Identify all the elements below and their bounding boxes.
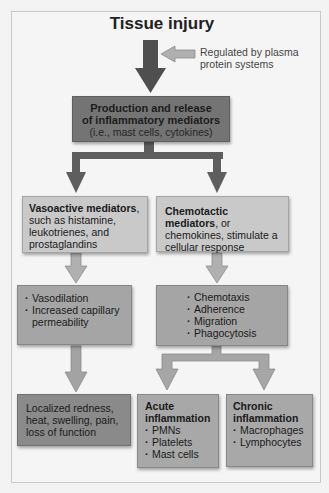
down-arrow-icon [65,253,228,283]
production-line: (i.e., mast cells, cytokines) [73,126,229,138]
down-arrow-icon [65,346,87,392]
vasoactive-mediators-box: Vasoactive mediators, such as histamine,… [22,196,148,253]
list-item: Phagocytosis [187,327,287,339]
production-line: Production and release [73,102,229,114]
box-heading: Vasoactive mediators [29,202,136,214]
list-item: Increased capillary permeability [25,304,124,328]
production-line: of inflammatory mediators [73,114,229,126]
down-arrow-icon [135,40,166,93]
regulation-note: Regulated by plasma protein systems [200,46,299,70]
list-item: Adherence [187,303,287,315]
split-arrow-icon [156,346,275,390]
note-line: protein systems [200,58,299,70]
diagram-title: Tissue injury [11,14,313,34]
list-item: PMNs [145,424,211,436]
vascular-effects-box: Vasodilation Increased capillary permeab… [17,285,132,345]
left-arrow-icon [161,46,195,62]
list-item: Mast cells [145,448,211,460]
box-heading: Acute inflammation [145,400,210,424]
list-item: Migration [187,315,287,327]
list-item: Lymphocytes [233,436,306,448]
split-arrow-icon [66,141,227,193]
chemotactic-mediators-box: Chemotactic mediators, or chemokines, st… [156,196,289,252]
acute-inflammation-box: Acute inflammation PMNs Platelets Mast c… [137,394,219,468]
box-heading: Chronic inflammation [233,400,298,424]
list-item: Macrophages [233,424,306,436]
cellular-effects-box: Chemotaxis Adherence Migration Phagocyto… [156,285,288,346]
list-item: Platelets [145,436,211,448]
list-item: Vasodilation [25,292,124,304]
chronic-inflammation-box: Chronic inflammation Macrophages Lymphoc… [226,394,313,467]
localized-signs-box: Localized redness, heat, swelling, pain,… [17,394,131,446]
list-item: Chemotaxis [187,291,287,303]
box-text: Localized redness, heat, swelling, pain,… [26,402,118,438]
note-line: Regulated by plasma [200,46,299,58]
production-box: Production and release of inflammatory m… [72,96,230,142]
